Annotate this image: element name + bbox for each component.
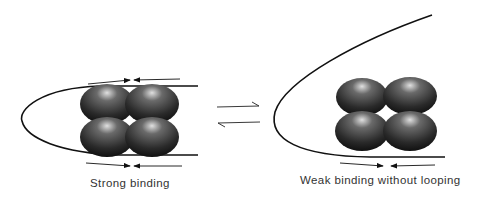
protein-tetramer [80,84,179,157]
diagram-svg [0,0,478,197]
strong-binding-panel [22,79,198,166]
strong-binding-label: Strong binding [90,177,170,189]
top-arrows [88,79,180,84]
diagram-canvas: Strong binding Weak binding without loop… [0,0,478,197]
equilibrium-arrows-icon [217,102,260,127]
weak-binding-label: Weak binding without looping [300,174,461,186]
bottom-arrows [340,163,435,166]
weak-binding-panel [274,15,445,166]
protein-tetramer [335,77,437,151]
bottom-arrows [86,163,182,166]
